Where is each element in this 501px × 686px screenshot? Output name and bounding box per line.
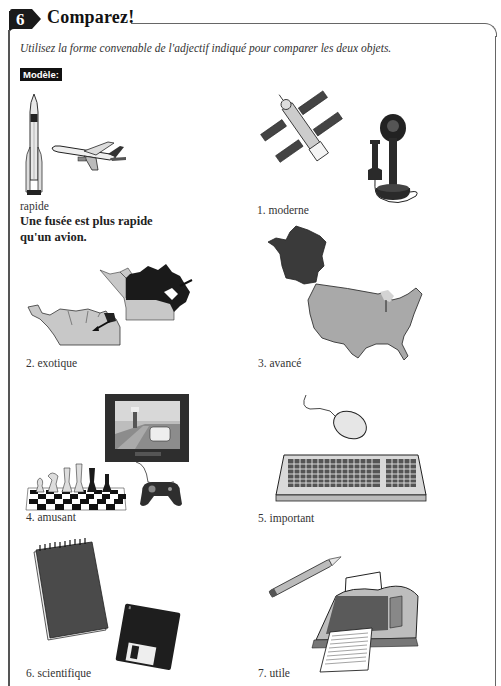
exercise-number-badge: 6 [8,8,44,34]
item-4-label: 4. amusant [26,511,76,523]
airplane-icon [50,140,130,180]
item-2-label: 2. exotique [26,357,77,369]
model-label: Modèle: [20,68,62,81]
item-6-label: 6. scientifique [26,667,91,679]
frame-corner [483,23,497,37]
model-answer-line2: qu'un avion. [20,230,87,245]
keyboard-icon [274,455,428,507]
notepad-icon [32,540,112,650]
video-game-tv-icon [105,394,191,470]
model-adjective: rapide [20,200,49,212]
satellite-icon [267,84,347,168]
floppy-disk-icon [116,604,182,674]
item-1-label: 1. moderne [257,204,309,216]
item-3-label: 3. avancé [258,357,301,369]
item-5-label: 5. important [258,512,314,524]
computer-mouse-icon [300,395,370,449]
model-answer-line1: Une fusée est plus rapide [20,214,153,229]
candlestick-telephone-icon [358,110,418,214]
game-controller-icon [136,462,186,512]
exercise-number: 6 [16,10,25,30]
rocket-icon [22,92,46,202]
frame-right-border [495,36,496,686]
frame-left-border [8,30,10,686]
printer-icon [306,566,436,678]
instructions: Utilisez la forme convenable de l'adject… [20,42,391,54]
exercise-title: Comparez! [47,7,134,28]
canada-map-icon [100,262,200,338]
france-map-icon [268,226,328,290]
usa-map-icon [308,284,426,370]
chess-set-icon [26,460,126,514]
item-7-label: 7. utile [258,667,290,679]
frame-top-border [131,23,484,24]
